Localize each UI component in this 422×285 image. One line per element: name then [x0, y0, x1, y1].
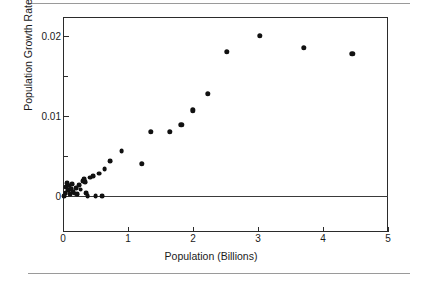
x-axis-tick	[193, 227, 194, 232]
y-axis-tick-label: 0.01	[42, 111, 61, 122]
scatter-point	[108, 158, 113, 163]
x-axis-tick-label: 0	[60, 233, 66, 244]
figure-container: 01234500.010.02 Population (Billions) Po…	[0, 0, 422, 285]
scatter-point	[119, 149, 124, 154]
zero-baseline	[63, 196, 388, 197]
x-axis-label: Population (Billions)	[0, 250, 422, 262]
x-axis-tick-label: 2	[190, 233, 196, 244]
scatter-point	[97, 171, 102, 176]
scatter-point	[93, 194, 98, 199]
x-axis-tick	[323, 227, 324, 232]
y-axis-tick-label: 0.02	[42, 31, 61, 42]
x-axis-tick	[63, 227, 64, 232]
x-axis-tick-label: 4	[320, 233, 326, 244]
x-axis-tick	[128, 227, 129, 232]
scatter-point	[102, 166, 107, 171]
y-axis-label: Population Growth Rate	[22, 0, 34, 145]
y-axis-tick	[64, 116, 69, 117]
scatter-point	[85, 194, 90, 199]
scatter-point	[83, 180, 88, 185]
y-axis-minor-tick	[64, 76, 68, 77]
bottom-rule	[28, 273, 410, 274]
scatter-point	[100, 194, 105, 199]
x-axis-tick-label: 3	[255, 233, 261, 244]
scatter-point	[75, 192, 80, 197]
scatter-point	[78, 187, 83, 192]
x-axis-tick-label: 5	[385, 233, 391, 244]
y-axis-tick	[64, 36, 69, 37]
y-axis-minor-tick	[64, 156, 68, 157]
top-rule	[28, 3, 410, 4]
y-axis-tick-label: 0	[55, 191, 61, 202]
scatter-point	[90, 174, 95, 179]
x-axis-tick	[388, 227, 389, 232]
x-axis-tick	[258, 227, 259, 232]
x-axis-tick-label: 1	[125, 233, 131, 244]
